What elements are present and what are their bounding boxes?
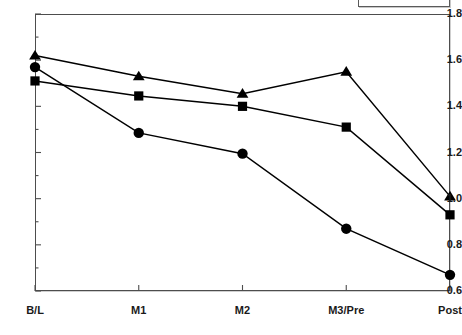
x-tick-label: Post bbox=[438, 305, 462, 316]
x-tick-label: B/L bbox=[26, 305, 44, 316]
y-tick-label: 1.4 bbox=[431, 100, 462, 111]
data-point-square bbox=[342, 123, 351, 132]
data-point-square bbox=[238, 102, 247, 111]
y-tick-label: 1.2 bbox=[431, 147, 462, 158]
y-tick-label: 1.0 bbox=[431, 193, 462, 204]
y-tick-label: 1.8 bbox=[431, 8, 462, 19]
y-tick-label: 0.6 bbox=[431, 285, 462, 296]
data-point-circle bbox=[341, 223, 351, 233]
data-point-circle bbox=[237, 148, 247, 158]
x-tick-label: M1 bbox=[131, 305, 146, 316]
series-triangle bbox=[29, 50, 456, 200]
data-point-circle bbox=[445, 270, 455, 280]
data-point-triangle bbox=[340, 66, 352, 76]
data-series-layer bbox=[29, 50, 456, 280]
data-point-triangle bbox=[29, 50, 41, 60]
data-point-circle bbox=[134, 128, 144, 138]
y-tick-label: 1.6 bbox=[431, 54, 462, 65]
series-square bbox=[30, 76, 454, 219]
data-point-square bbox=[134, 91, 143, 100]
chart-plot bbox=[0, 0, 462, 335]
x-tick-label: M2 bbox=[235, 305, 250, 316]
y-tick-label: 0.8 bbox=[431, 239, 462, 250]
data-point-circle bbox=[30, 62, 40, 72]
chart-figure: 0.60.81.01.21.41.61.8 B/LM1M2M3/PrePost bbox=[0, 0, 462, 335]
data-point-square bbox=[30, 76, 39, 85]
x-axis-ticks bbox=[35, 285, 450, 291]
data-point-square bbox=[445, 210, 454, 219]
x-tick-label: M3/Pre bbox=[328, 305, 364, 316]
